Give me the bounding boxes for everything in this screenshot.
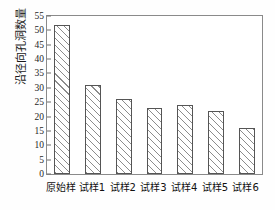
y-axis-tick-label: 0 [39, 169, 44, 179]
x-axis-tick-label: 试样3 [138, 179, 169, 194]
bar-1 [85, 85, 101, 174]
x-axis-tick-label: 试样2 [107, 179, 138, 194]
bar-0 [54, 25, 70, 174]
y-axis-tick-label: 25 [35, 97, 45, 107]
y-axis-tick-label: 40 [35, 54, 45, 64]
y-axis-title: 沿径向孔洞数量 [14, 0, 30, 116]
y-axis-tick-label: 15 [35, 126, 45, 136]
bar-chart-figure: 沿径向孔洞数量 0510152025303540455055 原始样试样1试样2… [0, 0, 275, 210]
y-axis-tick-label: 30 [35, 83, 45, 93]
y-axis-tick-label: 5 [39, 155, 44, 165]
y-axis-tick-label: 45 [35, 40, 45, 50]
bar-2 [116, 99, 132, 174]
plot-area: 0510152025303540455055 [46, 15, 263, 175]
y-axis-tick-label: 10 [35, 140, 45, 150]
y-axis-tick-label: 35 [35, 68, 45, 78]
bar-3 [147, 108, 163, 174]
x-axis-tick-label: 原始样 [46, 179, 77, 194]
x-axis-tick-label: 试样4 [169, 179, 200, 194]
bar-6 [239, 128, 255, 174]
bar-series [47, 16, 262, 174]
x-axis-tick-label: 试样1 [77, 179, 108, 194]
bar-4 [177, 105, 193, 174]
y-axis-tick-label: 20 [35, 112, 45, 122]
y-axis-tick-label: 55 [35, 11, 45, 21]
x-axis-tick-label: 试样6 [230, 179, 261, 194]
bar-5 [208, 111, 224, 174]
y-axis-tick-label: 50 [35, 25, 45, 35]
x-axis-tick-label: 试样5 [200, 179, 231, 194]
